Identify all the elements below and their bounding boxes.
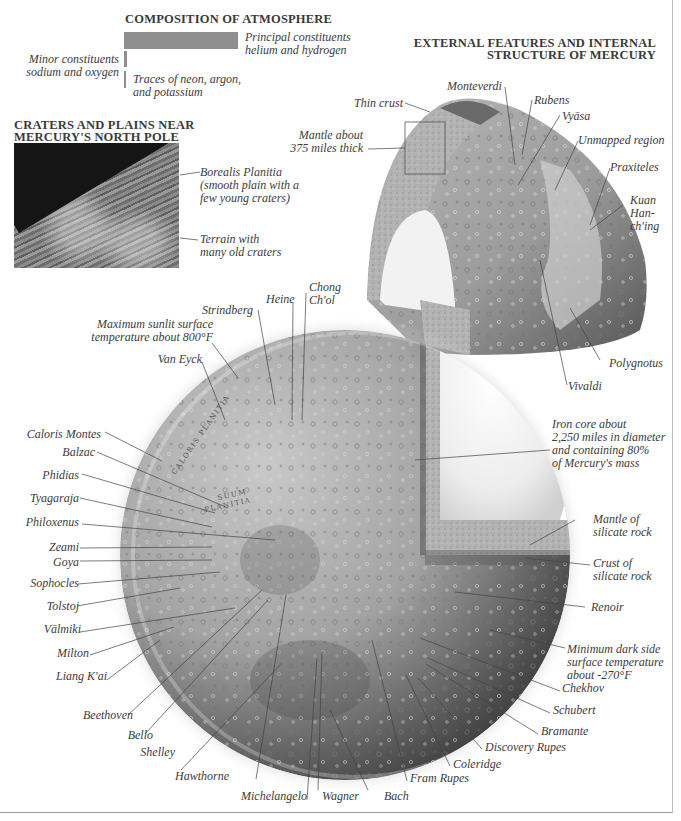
crater-label-heine: Heine	[266, 293, 295, 306]
label-tolstoj: Tolstoj	[47, 600, 79, 613]
mantle-cut-horizontal	[425, 520, 575, 555]
crater-label-praxiteles: Praxiteles	[610, 161, 659, 174]
label-renoir: Renoir	[591, 601, 624, 614]
crust-silicate-label-2: silicate rock	[593, 570, 652, 583]
label-goya: Goya	[53, 556, 79, 569]
label-hawthorne: Hawthorne	[175, 770, 229, 783]
mantle-thickness-label-2: 375 miles thick	[290, 142, 363, 155]
label-michelangelo: Michelangelo	[241, 790, 307, 803]
crater-label-kuan-3: ch'ing	[630, 220, 659, 233]
external-title-2: STRUCTURE OF MERCURY	[487, 48, 656, 62]
label-shelley: Shelley	[140, 746, 175, 759]
label-wagner: Wagner	[322, 790, 359, 803]
label-liang-kai: Liang K'ai	[56, 670, 107, 683]
label-caloris-montes: Caloris Montes	[27, 428, 101, 441]
label-schubert: Schubert	[553, 704, 596, 717]
label-discovery-rupes: Discovery Rupes	[485, 741, 566, 754]
label-zeami: Zeami	[49, 541, 79, 554]
label-milton: Milton	[57, 647, 89, 660]
max-temp-label-2: temperature about 800°F	[91, 331, 213, 344]
label-chekhov: Chekhov	[562, 682, 604, 695]
label-valmiki: Vālmiki	[44, 623, 81, 636]
label-phidias: Phidias	[42, 469, 79, 482]
label-philoxenus: Philoxenus	[26, 516, 79, 529]
crater-label-chong-2: Ch'ol	[309, 294, 335, 307]
label-tyagaraja: Tyagaraja	[30, 492, 79, 505]
crater-label-polygnotus: Polygnotus	[609, 357, 663, 370]
crater-label-van-eyck: Van Eyck	[158, 353, 202, 366]
crater-label-strindberg: Strindberg	[202, 304, 253, 317]
iron-core-label-4: of Mercury's mass	[552, 457, 639, 470]
crater-label-monteverdi: Monteverdi	[447, 80, 502, 93]
thin-crust-label: Thin crust	[354, 97, 403, 110]
mercury-illustration: CALORIS PLANITIA SUUM PLANITIA	[0, 0, 681, 821]
label-bach: Bach	[384, 790, 409, 803]
mantle-silicate-label-2: silicate rock	[593, 526, 652, 539]
label-bello: Bello	[128, 729, 153, 742]
label-coleridge: Coleridge	[453, 758, 501, 771]
label-fram-rupes: Fram Rupes	[410, 772, 469, 785]
crater-label-rubens: Rubens	[534, 94, 569, 107]
label-sophocles: Sophocles	[30, 577, 79, 590]
min-temp-label-3: about -270°F	[567, 669, 631, 682]
crater-label-vyasa: Vyāsa	[562, 110, 590, 123]
label-beethoven: Beethoven	[83, 709, 133, 722]
crater-label-vivaldi: Vivaldi	[568, 380, 602, 393]
unmapped-region-label: Unmapped region	[578, 134, 665, 147]
label-balzac: Balzac	[62, 446, 95, 459]
label-bramante: Bramante	[541, 725, 588, 738]
